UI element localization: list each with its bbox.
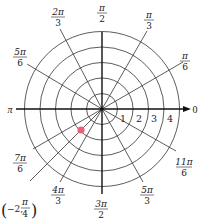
svg-text:3: 3 <box>144 196 150 206</box>
point-label-prefix: −2, <box>7 204 23 214</box>
svg-text:3π: 3π <box>95 199 108 209</box>
axis-arrow-icon <box>183 106 191 112</box>
svg-text:11π: 11π <box>175 157 193 167</box>
radial-label-2: 2 <box>136 113 142 124</box>
angle-label-5pi6: 5π 6 <box>13 47 27 68</box>
radial-label-1: 1 <box>120 113 126 124</box>
ray-2pi3 <box>60 29 102 109</box>
angle-label-pi3: π 3 <box>144 10 154 31</box>
ray-pi3 <box>102 31 147 109</box>
ray-pi6 <box>102 62 183 109</box>
svg-text:π: π <box>98 3 106 13</box>
point-label-num: π <box>21 197 29 207</box>
svg-text:3: 3 <box>55 18 61 28</box>
radial-label-4: 4 <box>167 113 173 124</box>
radial-lines <box>27 29 183 182</box>
svg-text:5π: 5π <box>141 185 154 195</box>
svg-text:6: 6 <box>17 58 23 68</box>
point-label: ( −2, π 4 ) <box>1 197 37 220</box>
angle-label-pi2: π 2 <box>97 3 107 24</box>
svg-text:7π: 7π <box>14 153 27 163</box>
svg-text:5π: 5π <box>14 47 27 57</box>
point-label-den: 4 <box>22 209 28 219</box>
angle-label-2pi3: 2π 3 <box>51 7 65 28</box>
svg-text:3: 3 <box>55 196 61 206</box>
angle-label-5pi3: 5π 3 <box>140 185 154 206</box>
angle-label-pi: π <box>7 104 13 115</box>
angle-label-7pi6: 7π 6 <box>13 153 27 174</box>
svg-text:2π: 2π <box>51 7 65 17</box>
svg-text:4π: 4π <box>51 185 65 195</box>
pole <box>100 107 104 111</box>
svg-text:6: 6 <box>181 168 187 178</box>
ray-5pi6 <box>27 64 102 109</box>
svg-text:6: 6 <box>182 62 188 72</box>
angle-label-pi6: π 6 <box>180 51 190 72</box>
svg-text:2: 2 <box>98 210 104 220</box>
radial-label-3: 3 <box>151 113 157 124</box>
point-label-close-paren: ) <box>31 201 37 220</box>
angle-label-11pi6: 11π 6 <box>175 157 193 178</box>
angle-label-4pi3: 4π 3 <box>51 185 65 206</box>
angle-label-0: 0 <box>193 104 198 115</box>
polar-diagram: 1 2 3 4 0 π π 2 2π 3 π 3 5π <box>0 0 199 223</box>
svg-text:6: 6 <box>17 164 23 174</box>
svg-text:2: 2 <box>99 14 105 24</box>
svg-text:3: 3 <box>146 21 152 31</box>
plotted-point <box>77 126 84 133</box>
svg-text:π: π <box>145 10 153 20</box>
angle-label-3pi2: 3π 2 <box>94 199 108 220</box>
svg-text:π: π <box>181 51 189 61</box>
